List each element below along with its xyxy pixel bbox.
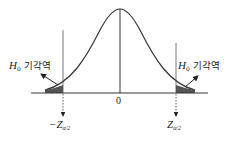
right-rejection-label: H0 기각역 bbox=[178, 58, 220, 72]
left-critical-label: −Zα/2 bbox=[49, 118, 70, 131]
right-critical-label: Zα/2 bbox=[167, 118, 181, 131]
left-rejection-label: H0 기각역 bbox=[9, 58, 51, 72]
left-region-arrow bbox=[41, 74, 58, 85]
center-zero-label: 0 bbox=[116, 95, 121, 106]
right-region-arrow bbox=[185, 76, 198, 87]
